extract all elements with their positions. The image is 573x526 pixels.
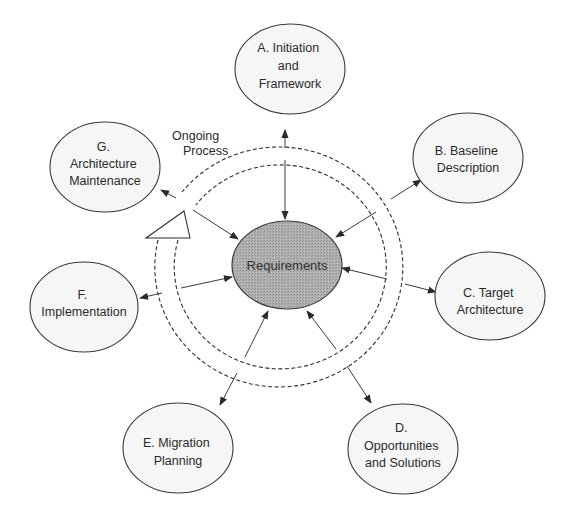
- node-a: A. Initiation and Framework: [235, 24, 345, 114]
- ongoing-process-label: Ongoing Process: [172, 129, 228, 158]
- connector-d-in: [307, 311, 336, 349]
- connector-g-in: [193, 210, 238, 239]
- requirements-label: Requirements: [247, 258, 328, 273]
- node-d-line: and Solutions: [365, 456, 441, 470]
- node-g: G. Architecture Maintenance: [50, 122, 160, 212]
- node-d-line: D.: [395, 421, 408, 435]
- connector-f-in: [181, 277, 232, 288]
- connector-c-in: [342, 268, 387, 279]
- connector-b-in: [336, 212, 376, 237]
- connector-d-out: [347, 366, 371, 403]
- ongoing-label-line1: Ongoing: [172, 129, 219, 143]
- node-c-line: Architecture: [457, 303, 524, 317]
- node-b-line: Description: [437, 161, 500, 175]
- connector-e-in: [245, 311, 268, 357]
- node-b-ellipse: [413, 113, 523, 203]
- connector-g-out: [161, 190, 176, 198]
- node-c-line: C. Target: [463, 286, 514, 300]
- node-f: F. Implementation: [30, 262, 138, 352]
- node-b: B. Baseline Description: [413, 113, 523, 203]
- requirements-cycle-diagram: Requirements Ongoing Process A. Initiati…: [0, 0, 573, 526]
- requirements-node: Requirements: [232, 221, 342, 309]
- node-f-line: Implementation: [41, 305, 127, 319]
- node-e-line: Planning: [154, 454, 203, 468]
- ring-direction-arrowhead: [146, 211, 190, 238]
- node-a-line: A. Initiation: [257, 41, 319, 55]
- ongoing-label-line2: Process: [183, 144, 228, 158]
- node-e: E. Migration Planning: [123, 403, 233, 493]
- node-g-line: Maintenance: [69, 174, 141, 188]
- node-b-line: B. Baseline: [435, 144, 498, 158]
- connector-e-out: [220, 373, 237, 405]
- node-c: C. Target Architecture: [435, 252, 545, 340]
- node-a-line: Framework: [259, 77, 322, 91]
- node-g-line: Architecture: [70, 157, 137, 171]
- node-g-line: G.: [97, 140, 110, 154]
- connector-f-out: [140, 293, 162, 298]
- node-f-line: F.: [77, 288, 87, 302]
- node-e-line: E. Migration: [143, 436, 210, 450]
- node-d-line: Opportunities: [364, 439, 438, 453]
- node-d: D. Opportunities and Solutions: [348, 404, 458, 494]
- node-a-line: and: [278, 59, 299, 73]
- connector-c-out: [405, 284, 436, 292]
- connector-b-out: [391, 180, 421, 199]
